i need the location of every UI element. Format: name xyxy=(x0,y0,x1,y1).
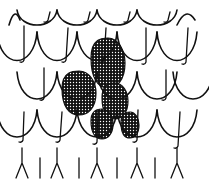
scale-arc xyxy=(157,32,197,61)
scale-hook xyxy=(124,12,130,22)
scale-arc xyxy=(137,10,177,25)
fork-stroke xyxy=(51,148,63,178)
scale-drawing xyxy=(0,0,209,186)
scale-arc-edge xyxy=(177,14,195,25)
scale-pattern-svg xyxy=(0,0,209,186)
scale-arc xyxy=(97,10,137,25)
scale-arc-edge xyxy=(9,14,20,25)
scale-arc xyxy=(37,32,77,61)
shaded-scale-bottom-right xyxy=(121,112,139,138)
scale-arc xyxy=(57,10,97,25)
fork-stroke xyxy=(91,148,103,178)
scale-hook xyxy=(164,12,170,22)
scale-hook xyxy=(174,112,180,148)
scale-arc xyxy=(17,72,57,99)
fork-stroke xyxy=(131,148,143,178)
scale-arc xyxy=(173,72,209,99)
scale-hook xyxy=(19,112,24,142)
scale-hook xyxy=(84,12,90,22)
scale-arc xyxy=(37,110,77,137)
scale-arc xyxy=(157,110,197,137)
scale-arc xyxy=(0,32,37,61)
scale-hook xyxy=(162,70,166,100)
scale-arc xyxy=(0,110,37,137)
fork-stroke xyxy=(16,148,28,178)
shaded-scale-bottom-left xyxy=(91,109,113,139)
scale-hook xyxy=(20,26,24,62)
shaded-scale-left xyxy=(62,71,96,115)
scale-arc xyxy=(137,72,177,99)
scale-arc xyxy=(17,10,57,25)
scale-hook xyxy=(44,12,50,22)
fork-stroke xyxy=(171,148,183,178)
scale-hook xyxy=(40,68,44,100)
